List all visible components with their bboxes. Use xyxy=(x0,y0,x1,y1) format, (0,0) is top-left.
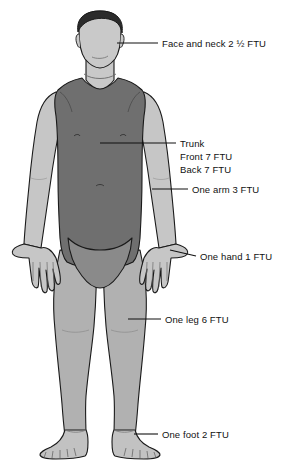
label-trunk-front: Front 7 FTU xyxy=(180,150,232,163)
foot-left xyxy=(40,430,88,459)
label-one-foot: One foot 2 FTU xyxy=(162,428,229,441)
ftu-dosing-diagram: Face and neck 2 ½ FTU Trunk Front 7 FTU … xyxy=(0,0,290,465)
label-one-arm: One arm 3 FTU xyxy=(192,183,259,196)
label-trunk-back: Back 7 FTU xyxy=(180,163,232,176)
label-face-and-neck: Face and neck 2 ½ FTU xyxy=(162,37,266,50)
label-one-hand: One hand 1 FTU xyxy=(200,250,272,263)
label-one-leg: One leg 6 FTU xyxy=(165,313,229,326)
human-body-figure xyxy=(0,0,290,465)
label-trunk-line1: Trunk xyxy=(180,138,204,149)
label-trunk: Trunk Front 7 FTU Back 7 FTU xyxy=(180,137,232,176)
head-group xyxy=(76,11,124,68)
